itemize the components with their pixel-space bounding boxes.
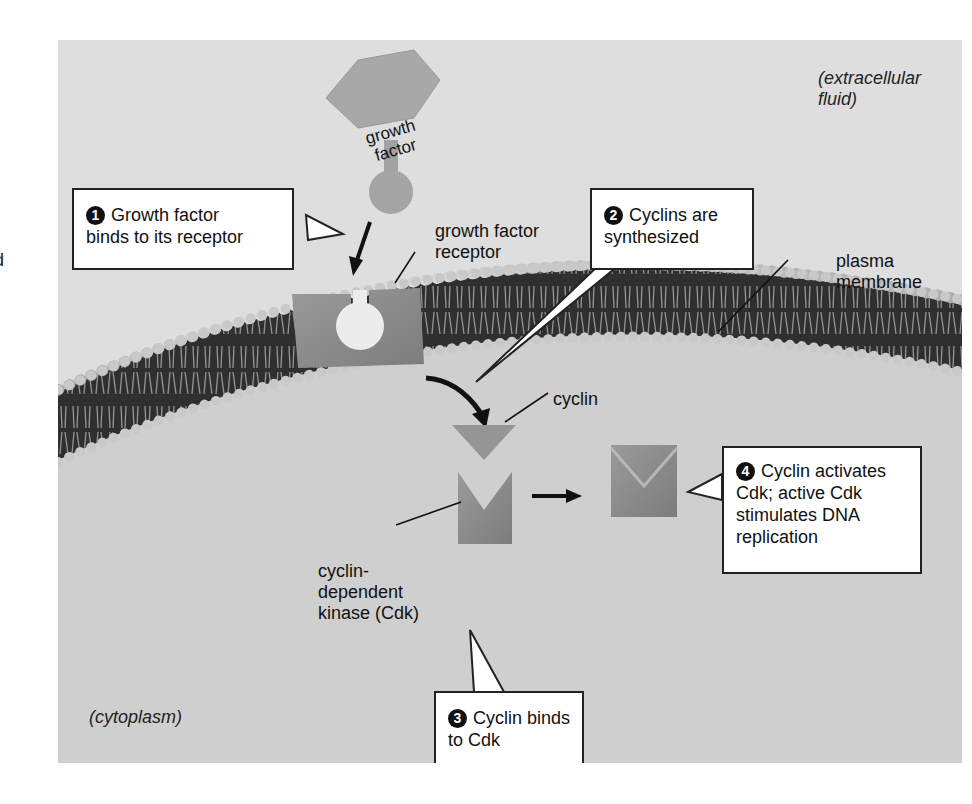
active-cyclin-cdk-shape [611, 445, 677, 517]
step-3-number-badge: 3 [448, 709, 467, 728]
plasma-membrane-label: plasma membrane [836, 251, 922, 293]
cdk-label: cyclin- dependent kinase (Cdk) [318, 561, 419, 624]
step-4-number-badge: 4 [736, 462, 755, 481]
extracellular-fluid-label: (extracellular fluid) [818, 68, 921, 110]
diagram-panel: growth factor (extracellular fluid) (cyt… [58, 40, 962, 763]
step-1-callout: 1Growth factor binds to its receptor [72, 188, 294, 270]
callout-1-tail [306, 215, 343, 240]
step-1-number-badge: 1 [86, 206, 105, 225]
edge-text-fragment: d [0, 250, 4, 271]
growth-factor-receptor-label: growth factor receptor [435, 221, 539, 263]
step-2-callout: 2Cyclins are synthesized [590, 188, 754, 270]
step-3-callout: 3Cyclin binds to Cdk [434, 691, 584, 763]
step-4-callout: 4Cyclin activates Cdk; active Cdk stimul… [722, 446, 922, 574]
diagram-artwork [58, 40, 962, 763]
cytoplasm-label: (cytoplasm) [89, 707, 182, 728]
cyclin-label: cyclin [553, 389, 598, 410]
step-2-number-badge: 2 [604, 206, 623, 225]
growth-factor-receptor-shape [292, 288, 424, 368]
binding-arrow [349, 222, 370, 276]
